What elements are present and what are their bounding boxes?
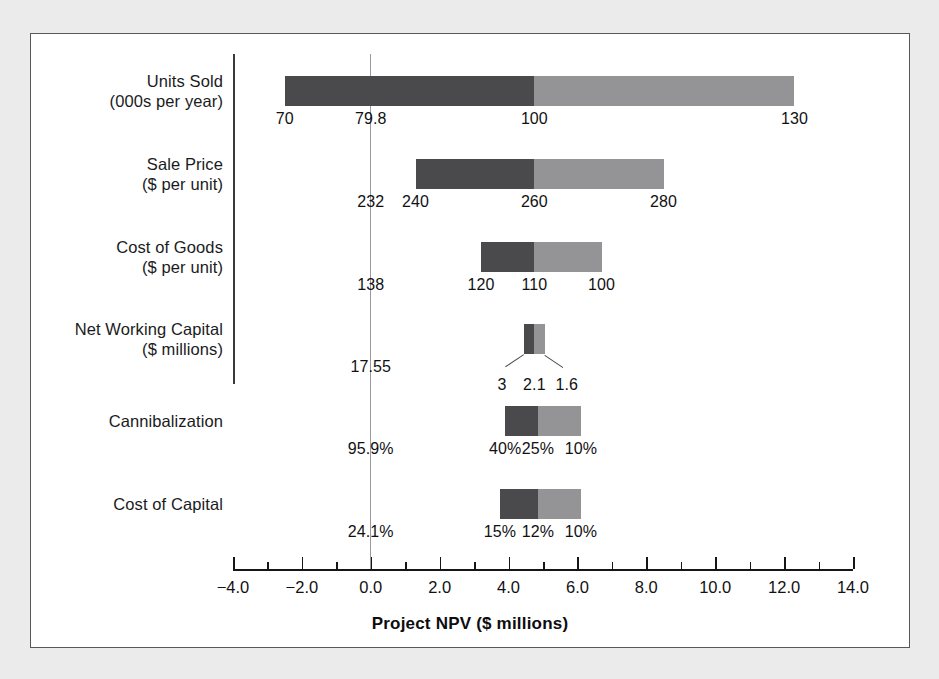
- x-tick-label: 10.0: [699, 578, 731, 597]
- x-tick-label: 0.0: [359, 578, 382, 597]
- x-tick-major: [302, 557, 304, 569]
- chart-page: Units Sold(000s per year)79.870100130Sal…: [0, 0, 939, 679]
- x-tick-major: [646, 557, 648, 569]
- x-axis-title: Project NPV ($ millions): [31, 614, 909, 634]
- x-axis: −4.0−2.00.02.04.06.08.010.012.014.0 Proj…: [31, 34, 909, 647]
- x-tick-minor: [267, 562, 269, 569]
- x-tick-minor: [612, 562, 614, 569]
- x-tick-major: [440, 557, 442, 569]
- x-tick-label: −4.0: [217, 578, 250, 597]
- x-tick-minor: [336, 562, 338, 569]
- chart-canvas: Units Sold(000s per year)79.870100130Sal…: [31, 34, 909, 647]
- x-tick-major: [853, 557, 855, 569]
- x-tick-major: [715, 557, 717, 569]
- x-tick-major: [233, 557, 235, 569]
- x-tick-label: 2.0: [428, 578, 451, 597]
- x-axis-line: [233, 569, 853, 571]
- x-tick-major: [784, 557, 786, 569]
- x-tick-minor: [543, 562, 545, 569]
- x-tick-minor: [750, 562, 752, 569]
- x-tick-minor: [474, 562, 476, 569]
- x-tick-label: −2.0: [286, 578, 319, 597]
- x-tick-label: 14.0: [837, 578, 869, 597]
- x-tick-minor: [405, 562, 407, 569]
- x-tick-label: 8.0: [635, 578, 658, 597]
- x-tick-minor: [819, 562, 821, 569]
- x-tick-major: [509, 557, 511, 569]
- x-tick-label: 4.0: [497, 578, 520, 597]
- chart-frame: Units Sold(000s per year)79.870100130Sal…: [30, 33, 910, 648]
- x-tick-major: [371, 557, 373, 569]
- x-tick-major: [577, 557, 579, 569]
- x-tick-label: 6.0: [566, 578, 589, 597]
- x-tick-minor: [681, 562, 683, 569]
- x-tick-label: 12.0: [768, 578, 800, 597]
